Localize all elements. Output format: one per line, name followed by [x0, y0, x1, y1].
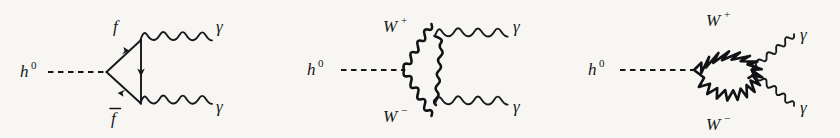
w-plus-superscript-d3: +	[724, 8, 730, 20]
photon-label-upper-d3: γ	[800, 25, 808, 44]
photon-bottom-wave	[435, 96, 508, 104]
diagram-w-bubble: h 0 W + W − γ γ	[572, 0, 840, 138]
w-minus-superscript-d2: −	[401, 104, 407, 116]
fermion-lower-arrow-icon	[118, 90, 126, 97]
higgs-superscript-d1: 0	[31, 59, 37, 71]
photon-label-lower-d3: γ	[800, 98, 808, 117]
higgs-label-d1: h	[20, 62, 29, 81]
fermion-label-top: f	[113, 17, 120, 36]
fermion-label-bottom: f	[111, 109, 118, 128]
diagram-w-triangle: h 0 W + W − γ γ	[285, 0, 555, 138]
diagram-fermion-triangle: h 0 f f γ γ	[0, 0, 280, 138]
w-plus-label-d2: W	[383, 17, 399, 36]
w-plus-upper-leg	[403, 24, 432, 70]
photon-top-wave	[141, 32, 213, 40]
photon-top-wave	[435, 28, 508, 36]
higgs-superscript-d3: 0	[599, 57, 605, 69]
photon-bottom-wave	[141, 95, 213, 103]
photon-upper-wave	[756, 34, 795, 66]
fermion-lower-leg	[107, 72, 142, 104]
fermion-upper-leg	[107, 40, 142, 72]
w-minus-label-d2: W	[383, 107, 399, 126]
higgs-label-d3: h	[588, 60, 597, 79]
feynman-diagram-figure: h 0 f f γ γ h 0 W + W − γ γ	[0, 0, 840, 138]
photon-label-top-d1: γ	[216, 17, 224, 36]
higgs-superscript-d2: 0	[318, 57, 324, 69]
higgs-label-d2: h	[307, 60, 316, 79]
w-minus-lower-leg	[403, 70, 432, 116]
w-vertical-leg	[434, 36, 442, 105]
photon-label-bottom-d2: γ	[513, 97, 521, 116]
photon-label-top-d2: γ	[513, 17, 521, 36]
photon-label-bottom-d1: γ	[216, 97, 224, 116]
w-plus-label-d3: W	[706, 11, 722, 30]
w-plus-superscript-d2: +	[401, 14, 407, 26]
w-minus-superscript-d3: −	[724, 112, 730, 124]
w-minus-label-d3: W	[706, 115, 722, 134]
